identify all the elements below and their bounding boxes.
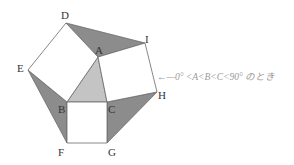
angle-condition-note: ←—0° <A<B<C<90° のとき (157, 72, 275, 82)
label-a: A (95, 44, 103, 56)
label-c: C (108, 103, 115, 115)
label-h: H (158, 89, 166, 101)
label-b: B (58, 103, 65, 115)
geometry-diagram: D A I E B C H F G ←—0° <A<B<C<90° のとき (0, 0, 294, 165)
label-g: G (108, 146, 116, 158)
square-bfgc (67, 102, 107, 143)
label-i: I (145, 33, 149, 45)
label-e: E (17, 62, 24, 74)
label-d: D (61, 9, 69, 21)
label-f: F (58, 146, 64, 158)
